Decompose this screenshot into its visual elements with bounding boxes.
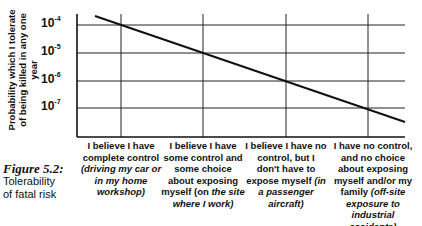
category-label-4: I have no control, and no choice about e… (327, 140, 419, 226)
category-1-main: I believe I have complete control (83, 140, 160, 163)
y-tick-1e-4: 10-4 (41, 16, 61, 30)
tolerance-line (95, 16, 405, 122)
y-tick-1e-6: 10-6 (41, 72, 61, 86)
figure-caption: Figure 5.2: Tolerability of fatal risk (3, 162, 67, 201)
y-axis-label: Probability which I tolerate of being ki… (4, 4, 40, 136)
category-1-example: (driving my car or in my home workshop) (81, 163, 161, 197)
category-label-2: I believe I have some control and some c… (160, 140, 246, 209)
category-label-3: I believe I have no control, but I don't… (245, 140, 327, 209)
figure-title: Tolerability of fatal risk (3, 175, 67, 201)
figure-number: Figure 5.2: (3, 162, 67, 175)
chart-plot-area (0, 0, 422, 140)
y-tick-1e-5: 10-5 (41, 44, 61, 58)
category-label-1: I believe I have complete control (drivi… (80, 140, 162, 198)
y-axis-label-text: Probability which I tolerate of being ki… (6, 4, 39, 136)
y-tick-1e-7: 10-7 (41, 99, 61, 113)
